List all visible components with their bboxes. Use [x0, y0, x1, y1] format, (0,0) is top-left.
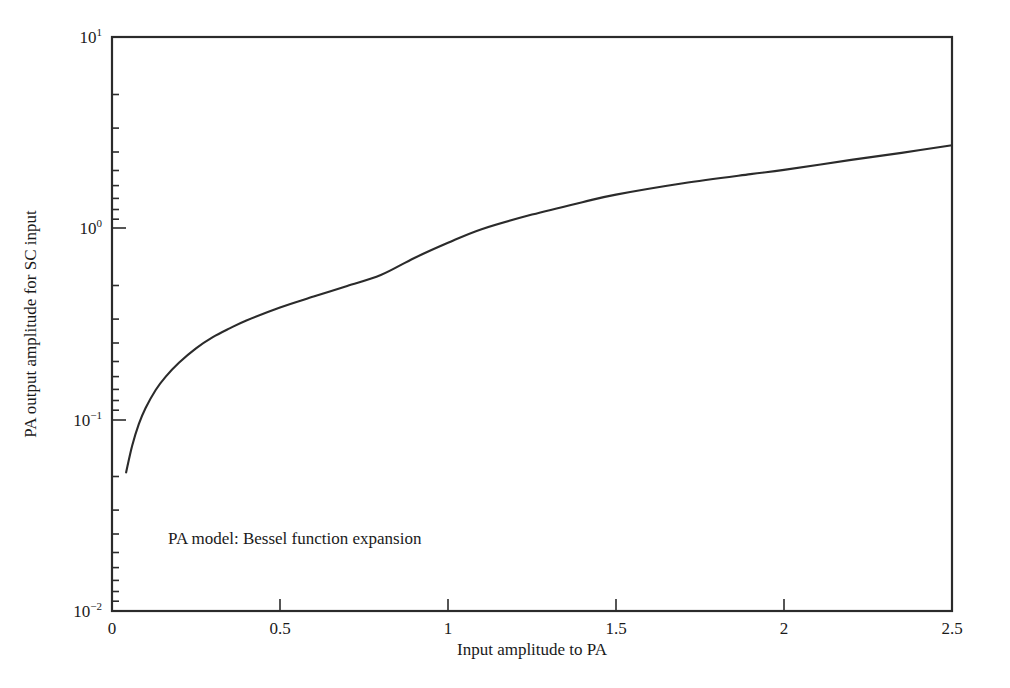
y-tick-label-10e-1: 10−1 [73, 412, 102, 429]
log-line-plot [0, 0, 1010, 688]
x-axis-title: Input amplitude to PA [457, 641, 607, 658]
y-tick-label-10e0: 100 [80, 220, 103, 237]
x-tick-marks [112, 599, 952, 611]
x-tick-label-0.5: 0.5 [269, 620, 290, 637]
x-tick-label-1: 1 [444, 620, 453, 637]
x-tick-label-0: 0 [108, 620, 117, 637]
y-tick-label-10e-2: 10−2 [73, 603, 102, 620]
y-tick-marks [112, 37, 126, 611]
chart-figure: 101 100 10−1 10−2 0 0.5 1 1.5 2 2.5 Inpu… [0, 0, 1010, 688]
data-series-curve [126, 145, 952, 472]
x-tick-label-1.5: 1.5 [605, 620, 626, 637]
y-tick-label-10e1: 101 [80, 29, 103, 46]
y-axis-title: PA output amplitude for SC input [22, 210, 39, 437]
plot-annotation: PA model: Bessel function expansion [168, 530, 421, 547]
x-tick-label-2.5: 2.5 [941, 620, 962, 637]
x-tick-label-2: 2 [780, 620, 789, 637]
